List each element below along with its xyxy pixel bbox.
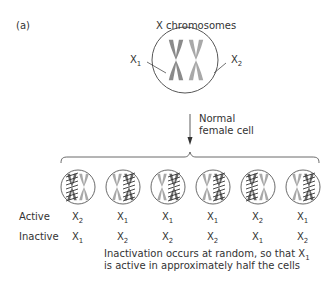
row-label-active: Active [19,211,50,223]
active-chromosome-label: X2 [252,211,263,227]
arrow-label-line1: Normal [199,113,235,125]
x1-leader-line [147,62,166,73]
chromosome-x2 [189,40,204,81]
row-label-inactive: Inactive [19,231,59,243]
label-x1: X1 [130,54,141,70]
active-chromosome [157,174,167,201]
down-arrow-icon [188,114,193,145]
diagram-title: X chromosomes [156,20,236,32]
active-chromosome-label: X1 [297,211,308,227]
panel-label: (a) [16,20,30,32]
daughter-cell [151,170,185,204]
caption-line2: is active in approximately half the cell… [104,260,300,272]
daughter-cells [61,170,320,204]
parent-cell [147,27,226,93]
arrow-label-line2: female cell [199,125,254,137]
active-chromosome [79,174,89,201]
label-x2: X2 [231,54,242,70]
active-chromosome-label: X1 [207,211,218,227]
daughter-cell [61,170,95,204]
active-chromosome [112,174,122,201]
inactive-chromosome-label: X2 [117,231,128,247]
chromosome-x1 [169,40,184,81]
active-chromosome [202,174,212,201]
inactive-chromosome-label: X2 [162,231,173,247]
daughter-cell [286,170,320,204]
daughter-cell [241,170,275,204]
brace-icon [61,152,319,163]
inactive-chromosome-label: X1 [252,231,263,247]
active-chromosome-label: X2 [72,211,83,227]
inactive-chromosome-label: X2 [207,231,218,247]
active-chromosome [292,174,302,201]
daughter-cell [196,170,230,204]
inactive-chromosome-label: X2 [297,231,308,247]
x2-leader-line [214,63,226,73]
active-chromosome-label: X1 [117,211,128,227]
active-chromosome-label: X1 [162,211,173,227]
inactive-chromosome-label: X1 [72,231,83,247]
active-chromosome [259,174,269,201]
daughter-cell [106,170,140,204]
